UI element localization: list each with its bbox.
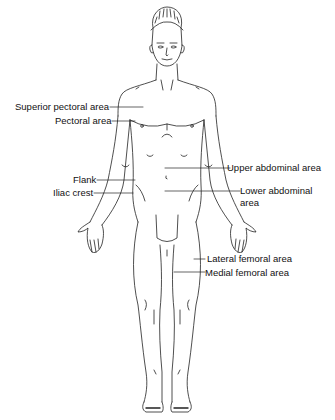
label-pectoral-area: Pectoral area — [55, 115, 112, 126]
label-flank: Flank — [73, 174, 96, 185]
label-iliac-crest: Iliac crest — [53, 187, 93, 198]
label-lower-abdominal-area: Lower abdominal — [240, 185, 312, 196]
label-superior-pectoral-area: Superior pectoral area — [15, 101, 109, 112]
label-medial-femoral-area: Medial femoral area — [205, 267, 289, 278]
label-lower-abdominal-area-line2: area — [240, 197, 259, 208]
arms — [78, 116, 256, 253]
body-illustration — [0, 0, 335, 420]
legs — [134, 215, 201, 412]
head — [150, 7, 185, 66]
label-lateral-femoral-area: Lateral femoral area — [207, 253, 292, 264]
torso — [118, 64, 216, 222]
label-upper-abdominal-area: Upper abdominal area — [227, 162, 321, 173]
